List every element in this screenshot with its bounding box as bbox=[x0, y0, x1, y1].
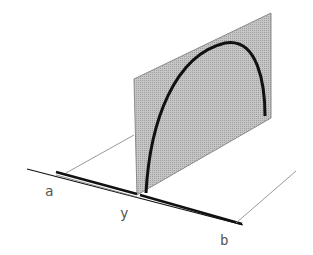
right-guide-line bbox=[236, 171, 296, 223]
diagram-svg: a y b bbox=[0, 0, 313, 255]
axis-line bbox=[27, 169, 243, 225]
vertical-plane bbox=[134, 13, 271, 195]
segment-y-b bbox=[140, 195, 242, 224]
left-guide-line bbox=[66, 135, 134, 173]
label-b: b bbox=[220, 232, 228, 248]
diagram-canvas: a y b bbox=[0, 0, 313, 255]
segment-a-y bbox=[56, 172, 137, 194]
segment-a-y-under bbox=[56, 175, 137, 197]
label-y: y bbox=[120, 205, 128, 221]
label-a: a bbox=[45, 183, 53, 199]
